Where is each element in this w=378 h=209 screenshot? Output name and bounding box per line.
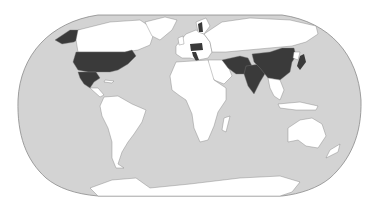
world-map: [0, 0, 378, 209]
region-germany-poland: [190, 43, 203, 51]
world-map-svg: [0, 0, 378, 209]
